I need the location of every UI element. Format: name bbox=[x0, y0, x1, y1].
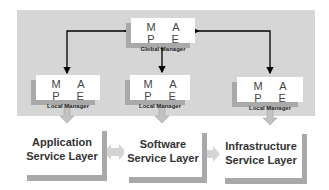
global-manager-label: Global Manager bbox=[131, 45, 195, 53]
local-manager-label: Local Manager bbox=[237, 104, 303, 112]
layer-line2: Service Layer bbox=[124, 151, 202, 165]
software-service-layer: Software Service Layer bbox=[124, 127, 202, 177]
infrastructure-service-layer: Infrastructure Service Layer bbox=[220, 128, 302, 178]
layer-line1: Infrastructure bbox=[220, 139, 302, 153]
local-manager-title: M A P E bbox=[130, 78, 190, 102]
local-manager-box-application: M A P E Local Manager bbox=[36, 75, 100, 100]
layer-line2: Service Layer bbox=[22, 149, 102, 163]
application-service-layer: Application Service Layer bbox=[22, 125, 102, 175]
layer-line2: Service Layer bbox=[220, 153, 302, 167]
global-manager-box: M A P E Global Manager bbox=[131, 18, 195, 43]
layer-line1: Application bbox=[22, 135, 102, 149]
local-manager-box-software: M A P E Local Manager bbox=[130, 75, 190, 100]
local-manager-label: Local Manager bbox=[130, 102, 190, 110]
local-manager-title: M A P E bbox=[237, 80, 303, 104]
global-manager-title: M A P E bbox=[131, 21, 195, 45]
local-manager-box-infrastructure: M A P E Local Manager bbox=[237, 77, 303, 102]
local-manager-title: M A P E bbox=[36, 78, 100, 102]
layer-line1: Software bbox=[124, 137, 202, 151]
local-manager-label: Local Manager bbox=[36, 102, 100, 110]
